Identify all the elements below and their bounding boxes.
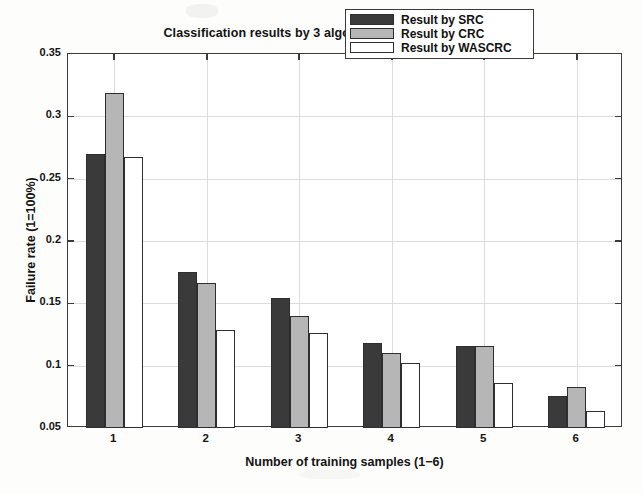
- y-tick-label: 0.35: [40, 46, 61, 58]
- x-tick-label: 1: [110, 432, 116, 444]
- bar-src-group-6: [548, 396, 567, 428]
- gridline-horizontal: [68, 116, 621, 117]
- y-tick-mark: [615, 178, 621, 180]
- y-tick-label: 0.1: [46, 358, 61, 370]
- gridline-horizontal: [68, 303, 621, 304]
- y-tick-label: 0.25: [40, 171, 61, 183]
- y-tick-mark: [615, 303, 621, 305]
- bar-wascrc-group-5: [494, 383, 513, 428]
- legend-swatch-wascrc-icon: [350, 42, 394, 53]
- x-tick-mark: [298, 54, 300, 60]
- bar-wascrc-group-1: [124, 157, 143, 428]
- legend-item-src: Result by SRC: [350, 13, 529, 26]
- y-tick-label: 0.05: [40, 420, 61, 432]
- x-axis-label: Number of training samples (1−6): [67, 455, 622, 469]
- bar-wascrc-group-4: [401, 363, 420, 428]
- bar-src-group-5: [456, 346, 475, 428]
- y-tick-mark: [68, 303, 74, 305]
- legend-label-crc: Result by CRC: [401, 28, 484, 40]
- bar-src-group-2: [178, 272, 197, 428]
- y-tick-mark: [68, 178, 74, 180]
- gridline-horizontal: [68, 366, 621, 367]
- bar-crc-group-5: [475, 346, 494, 428]
- x-tick-label: 2: [203, 432, 209, 444]
- legend-label-wascrc: Result by WASCRC: [401, 42, 512, 54]
- bar-wascrc-group-6: [586, 411, 605, 428]
- y-tick-label: 0.3: [46, 108, 61, 120]
- scan-artifact: [300, 470, 360, 479]
- legend-item-wascrc: Result by WASCRC: [350, 41, 529, 54]
- y-tick-label: 0.2: [46, 233, 61, 245]
- y-axis-label-text: Failure rate (1=100%): [24, 177, 38, 302]
- y-tick-mark: [68, 240, 74, 242]
- bar-wascrc-group-3: [309, 333, 328, 428]
- x-tick-mark: [206, 54, 208, 60]
- gridline-vertical: [577, 54, 578, 426]
- bar-crc-group-1: [105, 93, 124, 428]
- gridline-horizontal: [68, 241, 621, 242]
- bar-crc-group-2: [197, 283, 216, 428]
- x-tick-label: 5: [480, 432, 486, 444]
- y-tick-label: 0.15: [40, 295, 61, 307]
- bar-src-group-1: [86, 154, 105, 428]
- plot-area: [67, 53, 622, 427]
- x-tick-mark: [113, 54, 115, 60]
- y-tick-mark: [615, 365, 621, 367]
- gridline-horizontal: [68, 179, 621, 180]
- legend-swatch-src-icon: [350, 14, 394, 25]
- legend-swatch-crc-icon: [350, 28, 394, 39]
- bar-crc-group-3: [290, 316, 309, 428]
- bar-wascrc-group-2: [216, 330, 235, 428]
- bar-src-group-4: [363, 343, 382, 428]
- bar-crc-group-4: [382, 353, 401, 428]
- y-axis-label: Failure rate (1=100%): [22, 53, 40, 427]
- bar-crc-group-6: [567, 387, 586, 428]
- y-tick-mark: [68, 365, 74, 367]
- legend-item-crc: Result by CRC: [350, 27, 529, 40]
- x-tick-label: 3: [295, 432, 301, 444]
- x-tick-mark: [576, 54, 578, 60]
- x-tick-label: 6: [573, 432, 579, 444]
- y-tick-mark: [68, 116, 74, 118]
- bar-src-group-3: [271, 298, 290, 428]
- y-tick-mark: [615, 240, 621, 242]
- y-tick-mark: [615, 116, 621, 118]
- legend-label-src: Result by SRC: [401, 14, 484, 26]
- chart-legend: Result by SRC Result by CRC Result by WA…: [345, 9, 534, 59]
- x-tick-label: 4: [388, 432, 394, 444]
- figure-canvas: Classification results by 3 algorithms o…: [0, 0, 643, 494]
- plot-inner: [68, 54, 621, 426]
- scan-artifact: [186, 4, 218, 18]
